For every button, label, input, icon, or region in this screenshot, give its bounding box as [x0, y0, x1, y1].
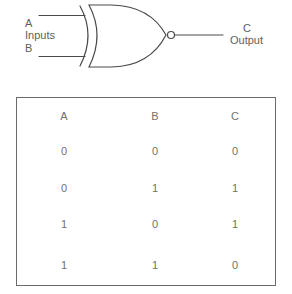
table-cell: 1 — [59, 218, 69, 230]
truth-table: A B C 0 0 0 0 1 1 1 0 1 1 1 0 — [16, 97, 276, 286]
header-a: A — [59, 110, 69, 122]
table-cell: 1 — [230, 182, 240, 194]
output-c-label: C — [243, 22, 251, 34]
table-cell: 0 — [150, 218, 160, 230]
table-cell: 0 — [230, 259, 240, 271]
input-a-label: A — [25, 17, 32, 29]
table-cell: 0 — [59, 182, 69, 194]
inputs-label: Inputs — [25, 29, 55, 41]
header-c: C — [230, 110, 240, 122]
gate-body — [89, 5, 166, 67]
table-cell: 0 — [150, 145, 160, 157]
table-cell: 1 — [150, 259, 160, 271]
output-label: Output — [230, 34, 263, 46]
table-cell: 1 — [59, 259, 69, 271]
header-b: B — [150, 110, 160, 122]
inversion-bubble — [168, 32, 175, 39]
table-cell: 1 — [230, 218, 240, 230]
table-cell: 0 — [230, 145, 240, 157]
input-b-label: B — [25, 42, 32, 54]
table-cell: 0 — [59, 145, 69, 157]
table-cell: 1 — [150, 182, 160, 194]
